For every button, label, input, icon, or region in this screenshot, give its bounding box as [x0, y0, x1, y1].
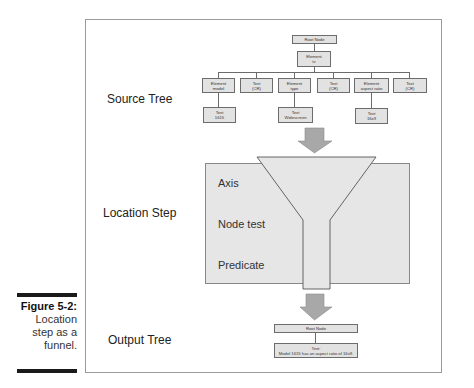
node-label: Root Node [304, 37, 324, 42]
down-arrow-icon [296, 127, 334, 155]
caption-line: step as a [0, 326, 77, 339]
connector-line [218, 93, 219, 107]
figure-label: Figure 5-2: [21, 300, 77, 312]
axis-label: Axis [218, 177, 239, 189]
grandchild-node-1615: Text 1615 [203, 107, 236, 123]
node-label: tv [312, 59, 315, 64]
node-label: 16x9 [367, 116, 376, 121]
output-root-node: Root Node [274, 324, 358, 333]
caption-bottom-rule [17, 369, 77, 373]
connector-line [294, 93, 295, 107]
node-label: (CR) [406, 86, 415, 91]
child-node-aspect-ratio: Element aspect ratio [354, 78, 389, 93]
node-label: (CR) [329, 86, 338, 91]
predicate-label: Predicate [218, 259, 264, 271]
element-tv-node: Element tv [297, 51, 331, 67]
node-label: Widescreen [284, 115, 306, 120]
child-node-text-cr: Text (CR) [317, 78, 350, 93]
source-tree-label: Source Tree [107, 92, 172, 106]
grandchild-node-widescreen: Text Widescreen [278, 107, 313, 123]
connector-line [371, 93, 372, 108]
caption-top-rule [17, 293, 77, 297]
root-node: Root Node [292, 35, 337, 44]
node-test-label: Node test [218, 218, 265, 230]
down-arrow-icon [298, 293, 334, 322]
node-label: aspect ratio [361, 86, 383, 91]
grandchild-node-16x9: Text 16x9 [355, 108, 388, 124]
node-label: model [213, 86, 224, 91]
funnel-icon [250, 154, 382, 292]
figure-caption: Figure 5-2: Location step as a funnel. [0, 300, 77, 352]
connector-line [314, 44, 315, 51]
node-label: 1615 [215, 115, 224, 120]
sibling-bar [218, 72, 410, 73]
node-label: (CR) [252, 86, 261, 91]
caption-line: funnel. [0, 339, 77, 352]
node-label: Root Node [306, 326, 326, 331]
child-node-type: Element type [278, 78, 311, 93]
caption-line: Location [0, 313, 77, 326]
node-label: type [291, 86, 299, 91]
output-text-node: Text: Model 1615 has an aspect ratio of … [274, 343, 358, 358]
output-tree-label: Output Tree [108, 333, 171, 347]
location-step-label: Location Step [103, 206, 176, 220]
child-node-model: Element model [202, 78, 235, 93]
node-label: Model 1615 has an aspect ratio of 16x9. [279, 351, 354, 356]
child-node-text-cr: Text (CR) [240, 78, 273, 93]
connector-line [315, 333, 316, 343]
child-node-text-cr: Text (CR) [393, 78, 427, 93]
